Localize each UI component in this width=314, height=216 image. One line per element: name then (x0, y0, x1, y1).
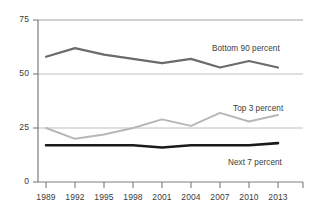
series-label-top-3: Top 3 percent (233, 104, 283, 113)
line-chart: 75 50 25 0 1989 1992 1995 1998 2001 2004… (0, 0, 314, 216)
series-label-bottom-90: Bottom 90 percent (212, 44, 280, 53)
series-line-next-7 (46, 143, 278, 147)
y-tick-label-50: 50 (5, 68, 29, 78)
y-axis-line (33, 20, 38, 182)
y-tick-label-75: 75 (5, 14, 29, 24)
x-axis-ticks (46, 182, 303, 188)
series-label-next-7: Next 7 percent (228, 158, 282, 167)
y-tick-label-25: 25 (5, 122, 29, 132)
y-tick-label-0: 0 (5, 176, 29, 186)
series-line-top-3 (46, 113, 278, 139)
x-tick-label-2013: 2013 (261, 192, 295, 202)
